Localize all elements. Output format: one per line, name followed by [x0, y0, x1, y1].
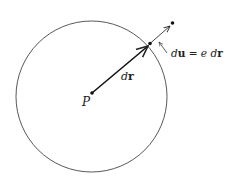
boundary-point-dot	[148, 42, 152, 46]
dr-vector	[92, 46, 148, 93]
outer-point-dot	[171, 21, 175, 25]
du-vector	[150, 26, 170, 44]
diagram-canvas: P dr du = e dr	[0, 0, 234, 182]
label-P: P	[81, 95, 91, 109]
label-dr: dr	[121, 70, 134, 83]
label-du-equation: du = e dr	[171, 47, 223, 59]
sphere-circle	[16, 21, 167, 172]
center-point-dot	[90, 91, 94, 95]
du-leader-arrow	[159, 42, 167, 53]
